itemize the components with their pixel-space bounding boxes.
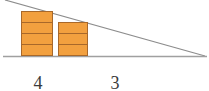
axis-labels: 4 3 [0,64,209,91]
bar-segment [59,23,87,34]
bar-segment [59,34,87,45]
bar-column-2 [58,22,88,56]
bar-segment [22,12,52,23]
bar-diagram-figure: 4 3 [0,0,209,91]
bar-segment [22,23,52,34]
bar-segment [22,34,52,45]
bar-column-1 [21,11,53,56]
bar-label-2: 3 [100,74,130,91]
bar-segment [22,45,52,55]
bar-label-1: 4 [23,74,53,91]
plot-area [0,0,209,64]
bar-segment [59,45,87,55]
